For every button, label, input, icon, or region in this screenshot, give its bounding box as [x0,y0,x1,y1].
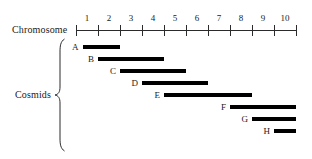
cosmid-label-h: H [264,125,275,137]
cosmid-row: H [0,125,312,137]
cosmid-label-c: C [110,65,120,77]
cosmid-row: B [0,53,312,65]
cosmid-label-d: D [132,77,143,89]
cosmid-row: C [0,65,312,77]
cosmid-bar-list: ABCDEFGH [0,0,312,159]
cosmid-bar-a [83,45,120,49]
cosmid-bar-f [230,105,296,109]
cosmid-bar-d [142,81,208,85]
cosmid-bar-g [252,117,296,121]
cosmid-bar-b [98,57,164,61]
cosmid-bar-e [164,93,252,97]
cosmid-contig-figure: Chromosome 12345678910 Cosmids ABCDEFGH [0,0,312,159]
cosmid-label-g: G [242,113,253,125]
cosmid-label-b: B [88,53,98,65]
cosmid-row: F [0,101,312,113]
cosmid-row: D [0,77,312,89]
cosmid-label-e: E [155,89,165,101]
cosmid-row: E [0,89,312,101]
cosmid-label-a: A [72,41,83,53]
cosmid-bar-c [120,69,186,73]
cosmid-label-f: F [221,101,230,113]
cosmid-row: A [0,41,312,53]
cosmid-bar-h [274,129,296,133]
cosmid-row: G [0,113,312,125]
